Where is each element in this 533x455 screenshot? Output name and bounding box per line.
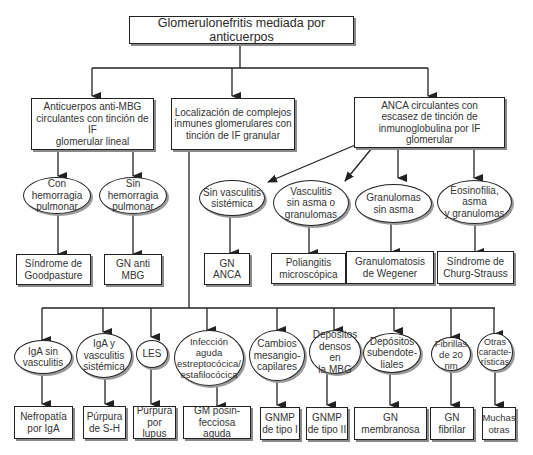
condition-text: Eosinofilia, asma y granulomas: [440, 185, 509, 220]
outcome-text: GN anti MBG: [116, 258, 150, 281]
condition-text: Cambios mesangio- capilares: [254, 338, 301, 373]
outcome-muchas-otras: Muchas otras: [482, 407, 516, 440]
anca-box: ANCA circulantes con escasez de tinción …: [354, 97, 505, 148]
outcome-text: Síndrome de Goodpasture: [25, 258, 83, 281]
condition-otras: Otras caracte- rísticas: [477, 333, 513, 371]
condition-text: Vasculitis sin asma o granulomas: [285, 186, 337, 221]
condition-vasculitis-sin-asma: Vasculitis sin asma o granulomas: [273, 180, 349, 226]
outcome-text: Síndrome de Churg-Strauss: [443, 256, 507, 279]
condition-text: LES: [143, 348, 162, 360]
outcome-purpura-sh: Púrpura de S-H: [83, 406, 126, 439]
condition-cambios-mesangiocapilares: Cambios mesangio- capilares: [249, 330, 305, 381]
condition-infeccion: Infección aguda estreptocócica/ estafilo…: [174, 330, 244, 386]
outcome-gm-posinfecciosa: GM posin- fecciosa aguda: [183, 406, 251, 439]
outcome-gn-anti-mbg: GN anti MBG: [104, 254, 162, 285]
condition-fibrillas: Fibrillas de 20 nm: [431, 337, 471, 371]
outcome-text: Muchas otras: [482, 412, 515, 435]
condition-iga-vasculitis: IgA y vasculitis sistémica: [76, 333, 132, 378]
outcome-text: Granulomatosis de Wegener: [355, 256, 425, 279]
condition-text: Fibrillas de 20 nm: [434, 338, 468, 371]
outcome-gn-anca: GN ANCA: [204, 253, 250, 285]
condition-text: Depósitos densos en la MBG: [312, 329, 358, 375]
condition-depositos-subendoteliales: Depósitos subendote- liales: [363, 333, 421, 373]
condition-granulomas-sin-asma: Granulomas sin asma: [355, 184, 432, 223]
condition-depositos-densos: Depósitos densos en la MBG: [309, 330, 361, 374]
outcome-text: GM posin- fecciosa aguda: [184, 405, 250, 440]
outcome-gnmp-tipo-2: GNMP de tipo II: [306, 407, 348, 440]
condition-con-hemorragia: Con hemorragia pulmonar: [23, 177, 91, 214]
condition-les: LES: [136, 340, 168, 368]
condition-text: Infección aguda estreptocócica/ estafilo…: [177, 336, 241, 380]
condition-text: Sin hemorragia pulmonar: [102, 178, 164, 213]
condition-sin-hemorragia: Sin hemorragia pulmonar: [99, 177, 167, 214]
condition-sin-vasculitis: Sin vasculitis sistémica: [199, 180, 265, 216]
glomerulonephritis-flowchart: Glomerulonefritis mediada por anticuerpo…: [0, 0, 533, 455]
condition-text: Sin vasculitis sistémica: [203, 187, 261, 210]
condition-text: IgA y vasculitis sistémica: [83, 338, 125, 373]
root-title-text: Glomerulonefritis mediada por anticuerpo…: [130, 16, 353, 44]
outcome-text: Púrpura de S-H: [87, 411, 123, 434]
anti-mbg-text: Anticuerpos anti-MBG circulantes con tin…: [32, 101, 153, 147]
outcome-text: GNMP de tipo II: [308, 412, 346, 435]
condition-text: Depósitos subendote- liales: [367, 336, 417, 371]
outcome-text: Nefropatía por IgA: [20, 411, 67, 434]
outcome-text: GNMP de tipo I: [262, 412, 298, 435]
outcome-text: GN fibrilar: [438, 412, 465, 435]
condition-text: Otras caracte- rísticas: [479, 337, 512, 367]
condition-eosinofilia: Eosinofilia, asma y granulomas: [437, 180, 512, 224]
outcome-gn-membranosa: GN membranosa: [354, 407, 427, 440]
anca-text: ANCA circulantes con escasez de tinción …: [355, 100, 504, 146]
outcome-text: GN ANCA: [213, 258, 241, 281]
outcome-gn-fibrilar: GN fibrilar: [430, 407, 474, 440]
condition-text: IgA sin vasculitis: [23, 346, 64, 369]
outcome-churg-strauss: Síndrome de Churg-Strauss: [437, 251, 514, 284]
outcome-goodpasture: Síndrome de Goodpasture: [16, 254, 91, 285]
anti-mbg-box: Anticuerpos anti-MBG circulantes con tin…: [31, 98, 154, 150]
outcome-wegener: Granulomatosis de Wegener: [346, 251, 434, 284]
connector-lines: [0, 0, 533, 455]
outcome-purpura-lupus: Púrpura por lupus: [133, 406, 176, 439]
outcome-text: Poliangitis microscópica: [279, 257, 337, 280]
immune-complex-text: Localización de complejos inmunes glomer…: [174, 107, 291, 142]
outcome-poliangitis: Poliangitis microscópica: [271, 253, 346, 284]
condition-text: Con hemorragia pulmonar: [26, 178, 88, 213]
outcome-text: GN membranosa: [361, 412, 419, 435]
condition-iga-sin-vasculitis: IgA sin vasculitis: [14, 340, 72, 374]
outcome-text: Púrpura por lupus: [134, 405, 175, 440]
condition-text: Granulomas sin asma: [366, 192, 420, 215]
outcome-gnmp-tipo-1: GNMP de tipo I: [260, 407, 300, 440]
outcome-nefropatia-iga: Nefropatía por IgA: [14, 406, 73, 439]
immune-complex-box: Localización de complejos inmunes glomer…: [171, 98, 295, 150]
root-title-box: Glomerulonefritis mediada por anticuerpo…: [129, 16, 354, 44]
